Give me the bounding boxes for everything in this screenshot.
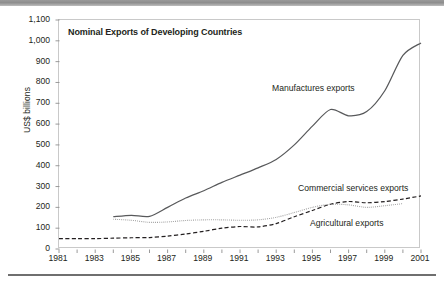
y-tick-label: 100 [14, 222, 50, 232]
x-tick-label: 1995 [302, 253, 321, 263]
series-label-manufactures: Manufactures exports [272, 83, 355, 93]
y-tick-label: 0 [14, 243, 50, 253]
y-tick-label: 600 [14, 118, 50, 128]
y-tick-label: 1,100 [14, 14, 50, 24]
plot-area [58, 19, 420, 248]
y-tick-label: 700 [14, 97, 50, 107]
x-tick-label: 1997 [338, 253, 357, 263]
series-label-agricultural: Agricultural exports [310, 218, 384, 228]
y-tick-label: 900 [14, 56, 50, 66]
y-axis-ticks: 01002003004005006007008009001,0001,100 [14, 0, 50, 286]
x-tick-label: 1983 [85, 253, 104, 263]
x-tick-label: 1993 [266, 253, 285, 263]
x-tick-label: 1981 [48, 253, 67, 263]
y-tick-label: 200 [14, 201, 50, 211]
series-lines [59, 20, 421, 249]
series-label-commercial-services: Commercial services exports [298, 183, 408, 193]
chart-figure: US$ billions 010020030040050060070080090… [0, 0, 444, 286]
x-tick-label: 2001 [410, 253, 429, 263]
y-tick-label: 1,000 [14, 35, 50, 45]
y-tick-label: 500 [14, 139, 50, 149]
chart-title: Nominal Exports of Developing Countries [68, 27, 242, 37]
y-tick-label: 300 [14, 181, 50, 191]
x-tick-label: 1989 [193, 253, 212, 263]
y-tick-label: 400 [14, 160, 50, 170]
x-tick-label: 1999 [374, 253, 393, 263]
x-tick-label: 1991 [229, 253, 248, 263]
bottom-rule [8, 274, 436, 276]
x-tick-label: 1987 [157, 253, 176, 263]
y-tick-label: 800 [14, 76, 50, 86]
x-tick-label: 1985 [121, 253, 140, 263]
